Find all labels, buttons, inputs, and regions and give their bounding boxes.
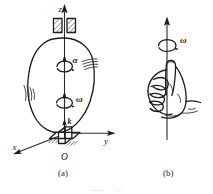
panel-b: ω [148,17,201,178]
omega-label-b: ω [180,35,187,45]
physics-figure: α ω k [0,0,213,194]
ground-hatching [49,139,78,146]
alpha-curl-arrowhead [72,69,75,73]
panel-a: α ω k [12,4,116,178]
x-axis-label: x [12,142,17,152]
panel-b-caption: (b) [163,168,174,178]
thumb-base-crease [170,84,173,94]
thumbnail [169,62,175,63]
omega-curl-arrowhead [72,105,75,109]
motion-lines-left [24,86,34,101]
x-axis: x [12,137,59,155]
omega-curl-b: ω [159,35,187,53]
panel-a-caption: (a) [58,168,68,178]
forearm-upper [186,101,201,103]
bearing-block-right [67,19,76,33]
y-axis: y [72,131,116,146]
rigid-body-outline [28,38,94,132]
angular-acceleration-indicator: α [57,55,79,73]
k-label: k [68,117,72,126]
motion-lines-right [82,59,98,70]
right-hand-illustration [148,60,201,118]
figure-container: α ω k [0,0,213,194]
forearm-lower [182,111,198,113]
hand-back-crease [178,94,181,103]
bearing-block-left [54,19,63,33]
omega-label-a: ω [76,94,83,104]
z-axis-arrowhead [61,4,67,13]
thumb-right-edge [171,61,175,96]
hand-back-outline [176,66,187,113]
angular-velocity-indicator: ω [57,92,83,110]
origin-label: O [61,152,68,162]
omega-curl-b-arrowhead [175,48,179,52]
alpha-label: α [73,55,79,65]
z-axis-label: z [58,4,63,14]
thumb-left-edge [166,60,172,94]
forearm-crease [189,108,196,109]
y-axis-label: y [103,136,108,146]
